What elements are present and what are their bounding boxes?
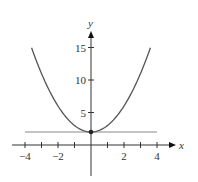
vertex-point	[89, 130, 94, 135]
y-tick-label: 5	[81, 107, 87, 119]
x-axis-arrow-icon	[169, 142, 176, 148]
x-tick-label: −2	[52, 150, 64, 162]
x-axis-label: x	[178, 139, 184, 151]
ticks: −4−22451015	[19, 42, 160, 163]
x-tick-label: 4	[154, 150, 160, 162]
y-axis-label: y	[87, 17, 93, 29]
y-axis-arrow-icon	[88, 31, 94, 38]
x-tick-label: −4	[19, 150, 31, 162]
y-tick-label: 15	[75, 42, 87, 54]
y-tick-label: 10	[75, 74, 87, 86]
plot-area: x y −4−22451015	[0, 0, 198, 182]
x-tick-label: 2	[121, 150, 127, 162]
